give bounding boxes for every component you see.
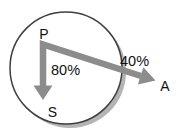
arrow-label-40pct: 40% [120,53,149,69]
node-label-a: A [160,78,170,94]
arrow-label-80pct: 80% [51,62,80,78]
diagram-canvas: P S A 80% 40% [0,0,176,137]
node-label-s: S [48,104,57,120]
node-label-p: P [39,26,48,42]
arrow-diagram: P S A 80% 40% [0,0,176,137]
